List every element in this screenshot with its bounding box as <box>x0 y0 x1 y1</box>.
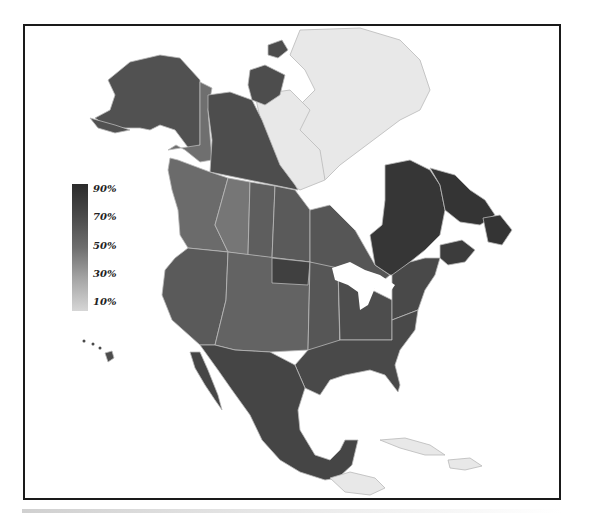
legend-label-70: 70% <box>93 211 116 222</box>
region-maritimes <box>440 240 475 265</box>
legend-label-90: 90% <box>93 183 116 194</box>
legend-color-scale <box>72 184 88 311</box>
choropleth-map <box>0 0 589 522</box>
region-newfoundland <box>483 215 512 245</box>
region-hawaii-islet-3 <box>99 347 102 350</box>
region-saskatchewan <box>248 182 275 258</box>
legend-label-50: 50% <box>93 240 116 251</box>
legend-label-10: 10% <box>93 296 116 307</box>
region-hawaii-islet-2 <box>92 343 95 346</box>
region-north-dakota <box>272 258 310 285</box>
legend-label-30: 30% <box>93 268 116 279</box>
region-alaska <box>95 55 200 150</box>
region-central-america <box>330 472 385 495</box>
region-hispaniola <box>448 458 482 470</box>
region-manitoba <box>272 186 310 262</box>
region-cuba <box>380 438 445 455</box>
region-hawaii <box>105 351 114 362</box>
page-edge-shadow <box>22 509 562 513</box>
region-us-west <box>162 248 228 345</box>
region-hawaii-islet-1 <box>83 340 86 343</box>
region-north-island-2 <box>268 40 288 58</box>
